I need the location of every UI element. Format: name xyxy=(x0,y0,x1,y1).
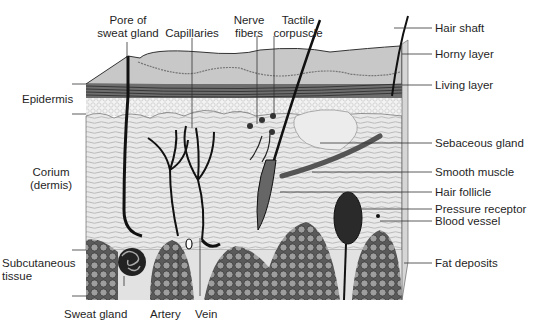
label-line: (dermis) xyxy=(22,179,80,192)
label-artery: Artery xyxy=(150,308,181,321)
label-smooth-muscle: Smooth muscle xyxy=(435,166,514,179)
label-sweat-gland: Sweat gland xyxy=(64,308,127,321)
label-sebaceous-gland: Sebaceous gland xyxy=(435,137,524,150)
label-subcutaneous-tissue: Subcutaneous tissue xyxy=(2,257,76,283)
label-line: tissue xyxy=(2,270,76,283)
label-fat-deposits: Fat deposits xyxy=(435,257,498,270)
label-capillaries: Capillaries xyxy=(150,27,234,40)
label-epidermis: Epidermis xyxy=(22,93,73,106)
label-line: Epidermis xyxy=(22,93,73,106)
label-hair-follicle: Hair follicle xyxy=(435,186,491,199)
label-line: Corium xyxy=(22,166,80,179)
label-living-layer: Living layer xyxy=(435,79,493,92)
label-hair-shaft: Hair shaft xyxy=(435,22,484,35)
label-vein: Vein xyxy=(195,308,217,321)
label-line: Capillaries xyxy=(150,27,234,40)
label-line: Tactile xyxy=(266,14,330,27)
label-line: Pore of xyxy=(86,14,170,27)
label-blood-vessel: Blood vessel xyxy=(435,215,500,228)
label-corium: Corium (dermis) xyxy=(22,166,80,192)
skin-surface xyxy=(86,44,402,86)
label-line: corpuscle xyxy=(266,27,330,40)
epidermis-layers xyxy=(86,84,402,116)
label-tactile-corpuscle: Tactile corpuscle xyxy=(266,14,330,40)
label-line: Subcutaneous xyxy=(2,257,76,270)
label-horny-layer: Horny layer xyxy=(435,48,494,61)
side-face xyxy=(402,40,408,300)
